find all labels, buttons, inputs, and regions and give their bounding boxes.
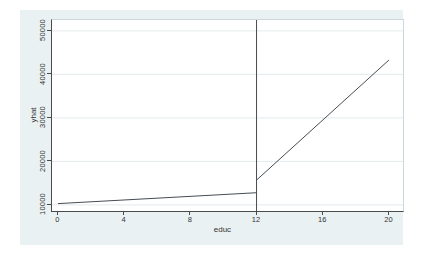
y-axis-title: yhat: [29, 107, 38, 122]
x-tick-label-16: 16: [318, 215, 326, 224]
x-tick-label-12: 12: [252, 215, 260, 224]
y-tick-50000: [47, 30, 51, 31]
chart-figure: yhat educ 100002000030000400005000004812…: [20, 10, 403, 245]
y-tick-10000: [47, 204, 51, 205]
x-tick-label-20: 20: [384, 215, 392, 224]
y-tick-40000: [47, 73, 51, 74]
x-axis-title: educ: [214, 225, 231, 234]
y-tick-label-30000: 30000: [38, 106, 47, 128]
y-tick-20000: [47, 160, 51, 161]
x-tick-label-4: 4: [122, 215, 126, 224]
x-tick-label-8: 8: [188, 215, 192, 224]
y-tick-label-20000: 20000: [38, 150, 47, 172]
plot-area: [51, 19, 404, 212]
y-tick-label-10000: 10000: [38, 193, 47, 215]
data-line-yhat-below-12: [58, 193, 257, 204]
x-tick-label-0: 0: [55, 215, 59, 224]
data-line-yhat-above-12: [257, 60, 389, 180]
plot-canvas: [52, 20, 403, 211]
y-tick-label-50000: 50000: [38, 19, 47, 41]
y-tick-30000: [47, 117, 51, 118]
y-tick-label-40000: 40000: [38, 63, 47, 85]
